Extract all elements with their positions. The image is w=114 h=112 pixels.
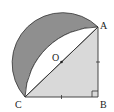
center-point-o — [60, 61, 63, 64]
label-a: A — [100, 20, 108, 31]
label-o: O — [52, 52, 59, 63]
label-b: B — [100, 99, 107, 110]
geometry-diagram: A B C O — [0, 0, 114, 112]
label-c: C — [15, 99, 22, 110]
